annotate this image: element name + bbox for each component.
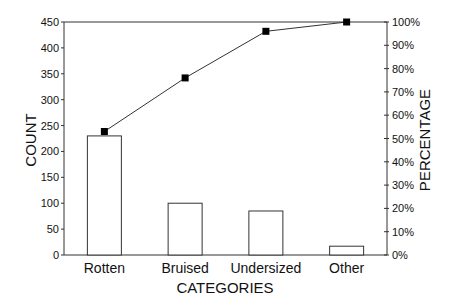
y2-tick-label: 80%: [392, 63, 414, 75]
y-tick-label: 350: [41, 68, 59, 80]
bar-bruised: [168, 203, 202, 255]
category-label: Undersized: [230, 260, 301, 276]
y-tick-label: 250: [41, 120, 59, 132]
y2-tick-label: 100%: [392, 16, 420, 28]
line-marker: [262, 28, 269, 35]
y-tick-label: 150: [41, 171, 59, 183]
right-axis-ticks: 0%10%20%30%40%50%60%70%80%90%100%: [384, 16, 420, 261]
line-marker: [343, 19, 350, 26]
y2-axis-title: PERCENTAGE: [416, 89, 433, 191]
y-tick-label: 0: [53, 249, 59, 261]
bar-undersized: [249, 211, 283, 255]
bar-other: [330, 246, 364, 255]
y2-tick-label: 50%: [392, 133, 414, 145]
y2-tick-label: 40%: [392, 156, 414, 168]
category-label: Rotten: [84, 260, 125, 276]
y-tick-label: 450: [41, 16, 59, 28]
y-tick-label: 100: [41, 197, 59, 209]
y2-tick-label: 10%: [392, 226, 414, 238]
y2-tick-label: 90%: [392, 39, 414, 51]
category-labels: RottenBruisedUndersizedOther: [84, 260, 365, 276]
category-label: Bruised: [161, 260, 208, 276]
y-tick-label: 50: [47, 223, 59, 235]
y2-tick-label: 60%: [392, 109, 414, 121]
line-marker: [101, 128, 108, 135]
y2-tick-label: 70%: [392, 86, 414, 98]
left-axis-ticks: 050100150200250300350400450: [41, 16, 64, 261]
y-tick-label: 200: [41, 145, 59, 157]
line-marker: [182, 74, 189, 81]
y-tick-label: 300: [41, 94, 59, 106]
x-axis-title: CATEGORIES: [176, 279, 273, 296]
y-axis-title: COUNT: [22, 113, 39, 166]
category-label: Other: [329, 260, 364, 276]
y2-tick-label: 0%: [392, 249, 408, 261]
y2-tick-label: 30%: [392, 179, 414, 191]
bar-rotten: [87, 136, 121, 255]
y2-tick-label: 20%: [392, 202, 414, 214]
pareto-chart: 050100150200250300350400450 0%10%20%30%4…: [0, 0, 450, 306]
cumulative-line: [101, 19, 350, 136]
y-tick-label: 400: [41, 42, 59, 54]
count-bars: [87, 136, 363, 255]
